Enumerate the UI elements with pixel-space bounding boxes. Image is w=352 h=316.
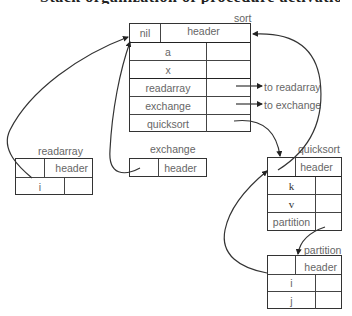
partition-row-j: j [268,291,341,309]
partition-row-i: i [268,274,341,291]
sort-row-x: x [130,60,250,78]
quicksort-record: header k v partition [267,157,342,231]
sort-row-a: a [130,42,250,60]
exchange-record: header [129,158,207,177]
sort-row-value [206,61,250,78]
quicksort-row-label: k [268,177,315,194]
sort-header-cell: header [160,24,250,42]
partition-access-link-arrow [224,171,267,273]
partition-record: header i j [267,255,342,309]
sort-row-label: a [130,43,206,60]
partition-row-value [315,292,341,309]
sort-header-row: nil header [130,24,250,42]
sort-row-value [206,115,250,132]
sort-row-label: x [130,61,206,78]
quicksort-row-k: k [268,176,341,194]
exchange-header-cell: header [158,159,206,177]
readarray-link-cell [16,159,44,177]
sort-row-label: readarray [130,79,206,96]
sort-row-readarray: readarray [130,78,250,96]
quicksort-row-value [315,195,341,212]
to-readarray-label: to readarray [264,81,321,93]
readarray-row-i: i [16,177,92,195]
sort-nil-cell: nil [130,24,160,42]
quicksort-link-cell [268,158,295,176]
sort-row-exchange: exchange [130,96,250,114]
readarray-title: readarray [38,145,83,157]
quicksort-title: quicksort [298,143,340,155]
to-exchange-label: to exchange [264,99,321,111]
quicksort-row-label: partition [268,213,315,230]
quicksort-row-label: v [268,195,315,212]
readarray-header-row: header [16,159,92,177]
exchange-header-row: header [130,159,206,177]
sort-row-label: quicksort [130,115,206,132]
quicksort-header-row: header [268,158,341,176]
quicksort-row-value [315,213,341,230]
quicksort-header-cell: header [295,158,341,176]
partition-row-label: j [268,292,315,309]
sort-row-value [206,43,250,60]
readarray-record: header i [15,158,93,195]
quicksort-row-value [315,177,341,194]
sort-row-value [206,79,250,96]
readarray-row-value [64,178,92,195]
sort-row-quicksort: quicksort [130,114,250,132]
sort-row-value [206,97,250,114]
quicksort-row-v: v [268,194,341,212]
sort-row-label: exchange [130,97,206,114]
partition-header-cell: header [295,256,341,274]
readarray-header-cell: header [44,159,92,177]
exchange-link-cell [130,159,158,177]
partition-header-row: header [268,256,341,274]
quicksort-row-partition: partition [268,212,341,230]
clipped-caption: Stack organization of procedure activati… [40,0,340,4]
partition-row-label: i [268,275,315,291]
partition-link-cell [268,256,295,274]
sort-record: nil header a x readarray exchange quicks… [129,23,251,132]
partition-row-value [315,275,341,291]
exchange-title: exchange [150,143,196,155]
readarray-row-label: i [16,178,64,195]
